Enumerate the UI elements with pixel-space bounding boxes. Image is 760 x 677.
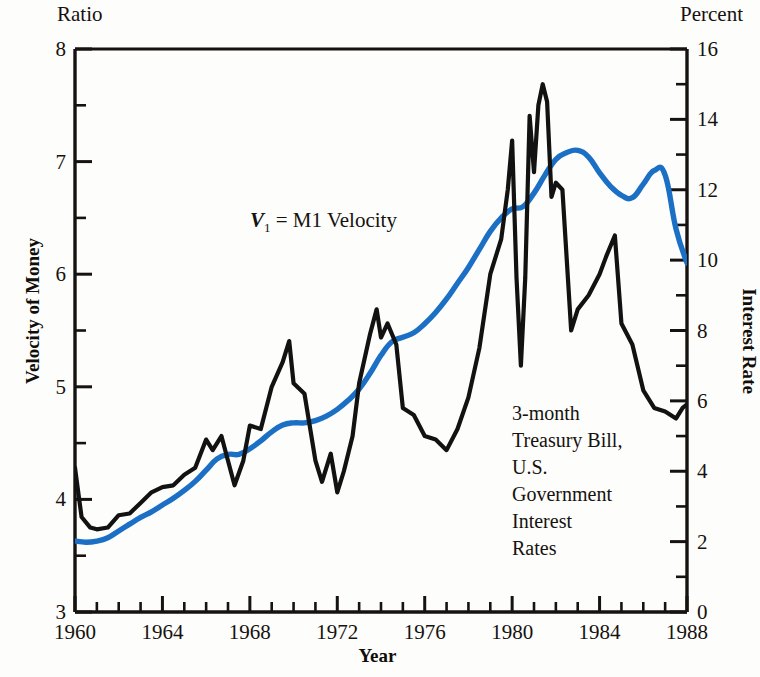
tbill-annotation-line-1: 3-month: [512, 400, 622, 427]
tbill-annotation-line-6: Rates: [512, 535, 622, 562]
tbill-annotation-line-5: Interest: [512, 508, 622, 535]
tbill-annotation-line-4: Government: [512, 481, 622, 508]
tbill-annotation-line-2: Treasury Bill,: [512, 427, 622, 454]
tbill-annotation-line-3: U.S.: [512, 454, 622, 481]
tbill-series-annotation: 3-monthTreasury Bill,U.S.GovernmentInter…: [512, 400, 622, 562]
velocity-series-annotation: V1 = M1 Velocity: [250, 208, 397, 236]
velocity-symbol: V: [250, 208, 264, 232]
velocity-annotation-text: = M1 Velocity: [271, 208, 397, 232]
